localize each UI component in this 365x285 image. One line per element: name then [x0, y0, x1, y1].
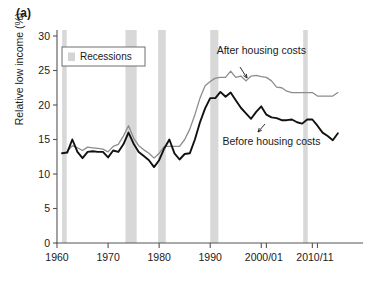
- legend-swatch-recessions: [68, 53, 75, 62]
- legend[interactable]: Recessions: [62, 47, 145, 66]
- recession-band-4: [210, 30, 218, 243]
- x-tick-label-1990: 1990: [199, 251, 223, 263]
- y-tick-label-25: 25: [38, 64, 50, 76]
- x-tick-label-1960: 1960: [45, 251, 69, 263]
- annotation-before-housing-costs: Before housing costs: [222, 135, 320, 147]
- annotation-after-housing-costs: After housing costs: [217, 44, 306, 56]
- y-tick-label-15: 15: [38, 133, 50, 145]
- x-axis-ticks: 19601970198019902000/012010/11: [45, 243, 333, 263]
- line-chart: 051015202530 19601970198019902000/012010…: [0, 0, 365, 285]
- x-tick-label-2000-01: 2000/01: [245, 251, 283, 263]
- x-tick-label-2010-11: 2010/11: [296, 251, 333, 263]
- legend-label-recessions: Recessions: [80, 51, 132, 62]
- data-series-group: [62, 71, 338, 167]
- y-tick-label-30: 30: [38, 30, 50, 42]
- x-tick-label-1970: 1970: [96, 251, 120, 263]
- series-line-before-housing-costs: [62, 92, 338, 167]
- y-tick-label-20: 20: [38, 99, 50, 111]
- recession-band-3: [158, 30, 166, 243]
- x-tick-label-1980: 1980: [147, 251, 171, 263]
- y-axis-ticks: 051015202530: [38, 30, 57, 249]
- figure-panel-a: (a) Relative low income (%) 051015202530…: [0, 0, 365, 285]
- y-tick-label-10: 10: [38, 168, 50, 180]
- y-tick-label-5: 5: [44, 202, 50, 214]
- y-tick-label-0: 0: [44, 237, 50, 249]
